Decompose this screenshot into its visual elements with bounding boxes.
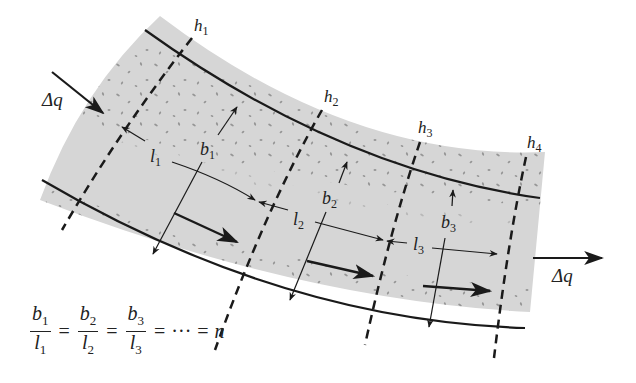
equals-sign: =: [197, 320, 208, 343]
flow-in-label: Δq: [41, 89, 63, 110]
ratio-n: n: [215, 320, 225, 343]
fraction-b3-l3: b3 l3: [126, 303, 147, 360]
label-h1: h1: [194, 16, 209, 38]
flow-out-label: Δq: [551, 265, 573, 286]
fraction-b2-l2: b2 l2: [78, 303, 99, 360]
fraction-b1-l1: b1 l1: [30, 303, 51, 360]
flow-net-equation: b1 l1 = b2 l2 = b3 l3 = ··· = n: [28, 303, 225, 360]
label-h3: h3: [418, 118, 433, 140]
label-h4: h4: [527, 133, 542, 155]
ellipsis: ···: [171, 320, 191, 343]
label-h2: h2: [324, 87, 339, 109]
equals-sign: =: [154, 320, 165, 343]
equals-sign: =: [106, 320, 117, 343]
equals-sign: =: [59, 320, 70, 343]
